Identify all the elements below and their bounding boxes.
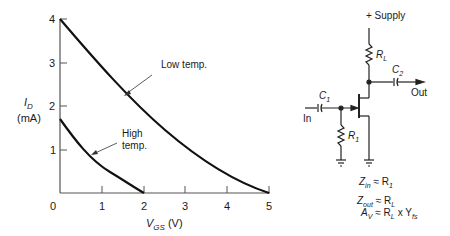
supply-label: + Supply [366,10,405,21]
r1-label: R1 [348,130,359,143]
origin-label: 0 [50,200,56,212]
x-axis-label: VGS(V) [146,217,183,232]
figure: 4 3 2 1 0 1 2 3 4 5 ID (mA) VGS(V) Low t… [0,0,450,236]
x-tick-2: 2 [141,200,147,212]
low-temp-curve [60,19,269,193]
y-tick-1: 1 [50,144,56,156]
x-tick-5: 5 [266,200,272,212]
jfet-amplifier-circuit: + Supply RL C2 Out C1 In [303,10,427,166]
y-axis-label: ID [24,96,33,111]
y-tick-2: 2 [49,100,55,112]
high-temp-label-line2: temp. [122,140,147,151]
rl-label: RL [376,49,387,62]
high-temp-label-line1: High [122,128,143,139]
zin-formula: Zin≈ R1 [358,176,393,189]
av-formula: AV≈ RLx Yfs [360,207,418,220]
y-tick-3: 3 [49,57,55,69]
arrow-icon [91,150,98,155]
y-tick-4: 4 [49,13,55,25]
resistor-rl-icon [366,44,372,65]
out-label: Out [411,87,427,98]
low-temp-pointer [126,75,152,94]
x-tick-4: 4 [224,200,230,212]
resistor-r1-icon [338,125,344,146]
y-axis-unit: (mA) [17,112,41,124]
x-tick-1: 1 [99,200,105,212]
gate-arrow-icon [351,106,358,111]
low-temp-label: Low temp. [161,59,207,70]
c1-label: C1 [319,90,330,103]
transfer-characteristic-graph: 4 3 2 1 0 1 2 3 4 5 ID (mA) VGS(V) Low t… [17,13,272,232]
c2-label: C2 [392,64,403,77]
formulas: Zin≈ R1 Zout≈ RL AV≈ RLx Yfs [356,176,418,220]
in-label: In [303,113,311,124]
output-arrow-icon [416,80,424,85]
x-tick-3: 3 [182,200,188,212]
